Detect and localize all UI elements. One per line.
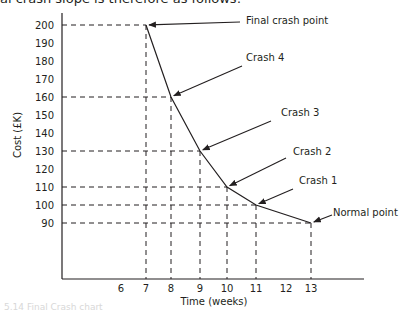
x-axis-label: Time (weeks) (180, 296, 248, 307)
point-annotations: Final crash pointCrash 4Crash 3Crash 2Cr… (149, 15, 398, 222)
crash-cost-chart: 90100110120130140150160170180190200 6789… (0, 0, 406, 317)
y-axis-label: Cost (£K) (12, 112, 23, 158)
x-tick-label: 8 (168, 283, 174, 294)
x-tick-label: 12 (280, 283, 293, 294)
point-annotation-label: Final crash point (246, 15, 328, 26)
y-tick-label: 140 (35, 128, 54, 139)
x-tick-label: 13 (305, 283, 318, 294)
y-tick-label: 150 (35, 110, 54, 121)
y-tick-label: 100 (35, 200, 54, 211)
x-tick-label: 6 (118, 283, 124, 294)
y-tick-label: 180 (35, 56, 54, 67)
point-annotation-label: Crash 1 (299, 175, 337, 186)
point-annotation-label: Crash 2 (293, 146, 331, 157)
x-tick-label: 10 (221, 283, 234, 294)
x-tick-labels: 678910111213 (118, 283, 318, 294)
figure-caption: 5.14 Final Crash chart (4, 302, 103, 312)
y-tick-label: 120 (35, 164, 54, 175)
y-tick-label: 170 (35, 74, 54, 85)
point-annotation-label: Normal point (333, 207, 398, 218)
projection-lines (62, 25, 311, 279)
x-tick-label: 9 (197, 283, 203, 294)
y-tick-labels: 90100110120130140150160170180190200 (35, 20, 54, 229)
y-tick-label: 90 (41, 218, 54, 229)
point-annotation-label: Crash 4 (246, 52, 284, 63)
point-annotation-label: Crash 3 (281, 107, 319, 118)
y-tick-label: 160 (35, 92, 54, 103)
y-tick-label: 200 (35, 20, 54, 31)
y-tick-label: 110 (35, 182, 54, 193)
x-tick-label: 11 (250, 283, 263, 294)
x-tick-label: 7 (143, 283, 149, 294)
y-tick-label: 130 (35, 146, 54, 157)
y-tick-label: 190 (35, 38, 54, 49)
